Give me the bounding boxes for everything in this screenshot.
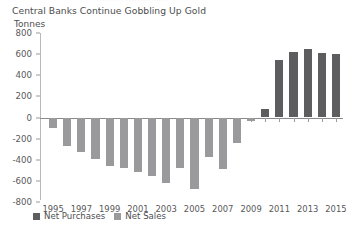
chart-bar bbox=[148, 118, 156, 176]
x-axis-tick-mark bbox=[67, 118, 68, 122]
chart-bar bbox=[106, 118, 114, 167]
legend-label: Net Sales bbox=[125, 211, 166, 221]
x-axis-tick-mark bbox=[138, 118, 139, 122]
x-axis-tick-label: 2013 bbox=[297, 204, 318, 214]
chart-bar bbox=[289, 52, 297, 117]
chart-bar bbox=[205, 118, 213, 157]
chart-bar bbox=[134, 118, 142, 173]
x-axis-tick-mark bbox=[152, 118, 153, 122]
y-axis-tick-label: 400 bbox=[2, 70, 32, 80]
x-axis-tick-label: 2015 bbox=[325, 204, 346, 214]
x-axis-tick-mark bbox=[124, 118, 125, 122]
x-axis-tick-mark bbox=[110, 118, 111, 122]
x-axis-tick-mark bbox=[294, 118, 295, 122]
y-axis-tick-label: -200 bbox=[2, 134, 32, 144]
chart-bar bbox=[120, 118, 128, 169]
y-axis-tick-mark bbox=[36, 117, 40, 118]
y-axis-tick-mark bbox=[36, 159, 40, 160]
plot-area: 8006004002000-200-400-600-80019951997199… bbox=[40, 33, 343, 200]
chart-bar bbox=[176, 118, 184, 169]
chart-title: Central Banks Continue Gobbling Up Gold bbox=[12, 5, 206, 16]
x-axis-tick-mark bbox=[53, 118, 54, 122]
x-axis-tick-mark bbox=[81, 118, 82, 122]
y-axis-tick-mark bbox=[36, 75, 40, 76]
chart-legend: Net Purchases Net Sales bbox=[33, 211, 166, 221]
chart-bar bbox=[304, 49, 312, 117]
legend-label: Net Purchases bbox=[44, 211, 105, 221]
x-axis-tick-label: 2007 bbox=[212, 204, 233, 214]
chart-bar bbox=[91, 118, 99, 159]
x-axis-tick-label: 2009 bbox=[240, 204, 261, 214]
y-axis-tick-mark bbox=[36, 138, 40, 139]
y-axis-tick-mark bbox=[36, 202, 40, 203]
x-axis-tick-mark bbox=[322, 118, 323, 122]
chart-bar bbox=[219, 118, 227, 170]
chart-bar bbox=[275, 60, 283, 118]
x-axis-tick-mark bbox=[209, 118, 210, 122]
y-axis-tick-mark bbox=[36, 180, 40, 181]
y-axis-tick-label: 0 bbox=[2, 113, 32, 123]
y-axis-tick-mark bbox=[36, 96, 40, 97]
x-axis-tick-label: 2005 bbox=[184, 204, 205, 214]
x-axis-tick-mark bbox=[237, 118, 238, 122]
x-axis-tick-mark bbox=[180, 118, 181, 122]
clipped-header-text: ·························· bbox=[96, 0, 246, 2]
y-axis-tick-label: 200 bbox=[2, 91, 32, 101]
chart-bar bbox=[162, 118, 170, 183]
legend-swatch-icon bbox=[114, 213, 121, 220]
x-axis-tick-mark bbox=[265, 118, 266, 122]
y-axis-tick-label: -400 bbox=[2, 155, 32, 165]
x-axis-tick-mark bbox=[195, 118, 196, 122]
y-axis-line bbox=[40, 33, 41, 200]
y-axis-tick-mark bbox=[36, 33, 40, 34]
x-axis-tick-mark bbox=[308, 118, 309, 122]
x-axis-tick-mark bbox=[96, 118, 97, 122]
x-axis-tick-label: 2011 bbox=[269, 204, 290, 214]
chart-bar bbox=[332, 54, 340, 118]
chart-container: ·························· Central Banks… bbox=[0, 0, 347, 236]
legend-item-net-purchases: Net Purchases bbox=[33, 211, 105, 221]
x-axis-tick-mark bbox=[279, 118, 280, 122]
legend-swatch-icon bbox=[33, 213, 40, 220]
legend-item-net-sales: Net Sales bbox=[114, 211, 166, 221]
chart-bar bbox=[261, 109, 269, 117]
y-axis-tick-label: 800 bbox=[2, 28, 32, 38]
x-axis-tick-mark bbox=[223, 118, 224, 122]
chart-bar bbox=[190, 118, 198, 190]
x-axis-tick-mark bbox=[336, 118, 337, 122]
chart-bar bbox=[77, 118, 85, 153]
chart-bar bbox=[318, 53, 326, 117]
x-axis-tick-mark bbox=[166, 118, 167, 122]
y-axis-tick-label: -800 bbox=[2, 197, 32, 207]
y-axis-tick-label: -600 bbox=[2, 176, 32, 186]
y-axis-tick-label: 600 bbox=[2, 49, 32, 59]
y-axis-tick-mark bbox=[36, 54, 40, 55]
x-axis-tick-mark bbox=[251, 118, 252, 122]
